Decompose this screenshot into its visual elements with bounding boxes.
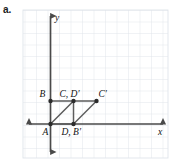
vertex-label-A: A	[42, 127, 49, 137]
y-axis-label: y	[54, 13, 60, 23]
vertex-label-B: B	[40, 89, 46, 99]
vertex-point-A	[48, 122, 52, 126]
x-axis-label: x	[157, 127, 163, 137]
figure-container: a.	[0, 0, 175, 167]
vertex-label-DB: D, B′	[61, 127, 82, 137]
coordinate-plane: y x ABC, D′D, B′C′	[0, 0, 175, 167]
vertex-point-Cp	[94, 99, 98, 103]
vertex-point-DB	[71, 122, 75, 126]
vertex-label-CD: C, D′	[60, 89, 81, 99]
vertex-point-CD	[71, 99, 75, 103]
vertex-point-B	[48, 99, 52, 103]
vertex-label-Cp: C′	[99, 89, 108, 99]
